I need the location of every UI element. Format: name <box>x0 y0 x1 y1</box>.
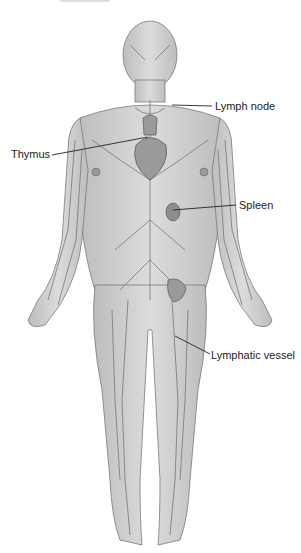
label-spleen: Spleen <box>239 199 273 211</box>
lymphatic-system-illustration <box>0 0 301 553</box>
label-lymph-node: Lymph node <box>215 100 275 112</box>
leader-lymph-node <box>172 105 212 106</box>
spleen <box>166 203 180 221</box>
label-thymus: Thymus <box>11 148 50 160</box>
label-lymphatic-vessel: Lymphatic vessel <box>211 349 295 361</box>
